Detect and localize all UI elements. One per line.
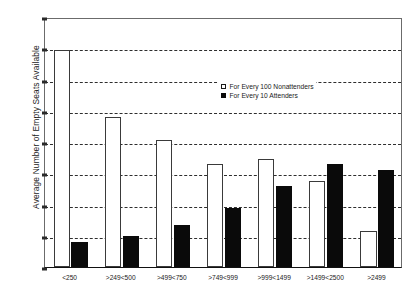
x-tick-label: >999<1499	[257, 274, 290, 281]
bar	[54, 50, 70, 267]
x-axis-tick-labels: <250>249<500>499<750>749<999>999<1499>14…	[44, 274, 402, 288]
y-tick-mark	[42, 268, 47, 271]
bar-group	[198, 19, 249, 267]
y-axis-title: Average Number of Empty Seats Available	[31, 12, 41, 242]
bar	[105, 117, 121, 267]
bar-group	[352, 19, 403, 267]
legend-entry: For Every 100 Nonattenders	[221, 82, 314, 91]
bar	[327, 164, 343, 267]
bar-group	[147, 19, 198, 267]
bar	[276, 186, 292, 267]
legend-entry: For Every 10 Attenders	[221, 91, 314, 100]
bar	[207, 164, 223, 267]
x-tick-label: <250	[62, 274, 77, 281]
x-tick-label: >499<750	[157, 274, 187, 281]
chart-legend: For Every 100 NonattendersFor Every 10 A…	[219, 81, 316, 101]
open-square-icon	[221, 84, 226, 89]
x-tick-label: >1499<2500	[307, 274, 344, 281]
bar	[123, 236, 139, 267]
bar	[225, 208, 241, 267]
x-tick-label: >2499	[367, 274, 386, 281]
bar	[309, 181, 325, 267]
filled-square-icon	[221, 93, 226, 98]
bar-group	[301, 19, 352, 267]
legend-label: For Every 10 Attenders	[230, 91, 298, 100]
bar-chart: Average Number of Empty Seats Available …	[0, 0, 411, 304]
bar	[71, 242, 87, 267]
plot-area: 24681012141618	[44, 18, 402, 268]
bar	[258, 159, 274, 267]
bars-layer	[45, 19, 401, 267]
bar	[378, 170, 394, 267]
bar-group	[250, 19, 301, 267]
bar-group	[45, 19, 96, 267]
legend-label: For Every 100 Nonattenders	[230, 82, 314, 91]
x-tick-label: >749<999	[208, 274, 238, 281]
bar	[174, 225, 190, 267]
x-tick-label: >249<500	[106, 274, 136, 281]
bar	[156, 140, 172, 267]
bar	[360, 231, 376, 267]
bar-group	[96, 19, 147, 267]
